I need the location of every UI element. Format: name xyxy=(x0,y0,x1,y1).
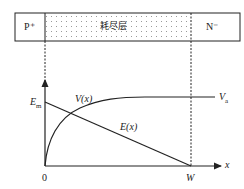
potential-label: V(x) xyxy=(75,94,92,104)
p-region-label: P⁺ xyxy=(24,22,35,32)
field-curve xyxy=(45,102,191,166)
w-label: W xyxy=(186,173,194,183)
depletion-region-label: 耗尽层 xyxy=(100,22,127,31)
origin-label: 0 xyxy=(42,173,47,183)
field-label: E(x) xyxy=(120,122,137,132)
em-label: Em xyxy=(30,97,42,110)
n-region-label: N⁻ xyxy=(206,22,218,32)
x-axis-label: x xyxy=(225,160,229,170)
va-label: Va xyxy=(219,92,228,105)
